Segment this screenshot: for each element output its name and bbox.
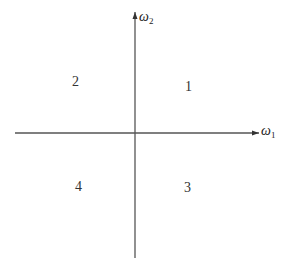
quadrant-label-4: 4 bbox=[75, 180, 82, 194]
axis-label-w2: ω2 bbox=[139, 10, 153, 26]
quadrant-label-1: 1 bbox=[185, 80, 192, 94]
axis-label-w1: ω1 bbox=[261, 124, 275, 140]
axis-label-w1-symbol: ω bbox=[261, 123, 271, 138]
axes-diagram bbox=[0, 0, 287, 272]
quadrant-label-2: 2 bbox=[72, 75, 79, 89]
axis-label-w1-subscript: 1 bbox=[271, 130, 276, 140]
quadrant-label-3: 3 bbox=[184, 181, 191, 195]
axis-label-w2-subscript: 2 bbox=[149, 16, 154, 26]
axis-label-w2-symbol: ω bbox=[139, 9, 149, 24]
